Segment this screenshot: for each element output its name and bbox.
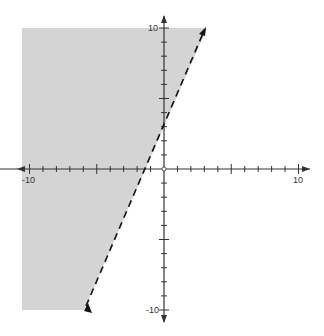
x-min-label: -10: [22, 175, 35, 185]
origin-marker: [162, 167, 166, 171]
y-max-label: 10: [148, 23, 158, 33]
y-min-label: -10: [146, 305, 159, 315]
x-max-label: 10: [293, 175, 303, 185]
inequality-graph: -10 10 10 -10: [0, 0, 324, 336]
